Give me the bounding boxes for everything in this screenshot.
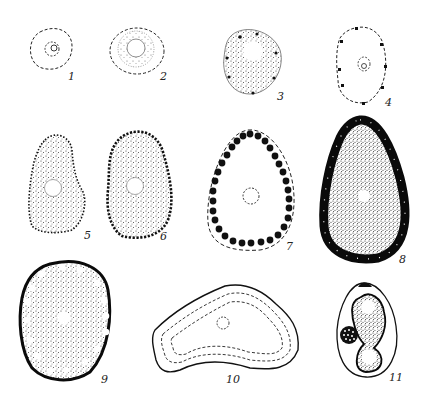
cell-panel-1 [30, 29, 72, 70]
panel-label-7: 7 [286, 241, 293, 252]
panel-label-10: 10 [226, 374, 240, 385]
cell-figure-canvas [0, 0, 426, 402]
cell-panel-4 [337, 27, 387, 105]
cell-panel-10 [153, 285, 299, 372]
panel-label-9: 9 [101, 374, 108, 385]
cell-panel-5 [29, 135, 85, 233]
cell-panel-9 [20, 262, 110, 380]
panel-label-6: 6 [160, 231, 167, 242]
cell-panel-7 [208, 130, 294, 250]
panel-label-5: 5 [84, 230, 91, 241]
cell-panel-11 [337, 283, 397, 378]
panel-label-1: 1 [68, 71, 75, 82]
panel-label-3: 3 [277, 91, 284, 102]
cell-panel-6 [108, 132, 172, 238]
cell-panel-2 [110, 28, 164, 74]
panel-label-4: 4 [385, 97, 392, 108]
panel-label-8: 8 [399, 254, 406, 265]
cell-panel-8 [324, 120, 405, 259]
panel-label-2: 2 [160, 71, 167, 82]
cell-panel-3 [224, 30, 282, 95]
panel-label-11: 11 [389, 372, 403, 383]
